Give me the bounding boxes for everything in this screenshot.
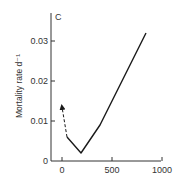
y-tick-label: 0.02	[30, 76, 48, 86]
x-axis: 05001000	[51, 157, 172, 175]
y-axis-label: Mortality rate d⁻¹	[14, 54, 24, 118]
mortality-chart: 00.010.020.03 05001000 C Mortality rate …	[0, 0, 177, 189]
plot-series	[62, 33, 146, 153]
x-tick-label: 1000	[152, 165, 172, 175]
y-tick-label: 0	[43, 156, 48, 166]
y-axis: 00.010.020.03	[30, 13, 55, 166]
extrapolation-arrow	[62, 107, 67, 137]
x-tick-label: 0	[59, 165, 64, 175]
y-tick-label: 0.03	[30, 36, 48, 46]
mortality-line	[67, 33, 146, 153]
panel-label: C	[55, 12, 62, 22]
x-tick-label: 500	[104, 165, 119, 175]
y-tick-label: 0.01	[30, 116, 48, 126]
